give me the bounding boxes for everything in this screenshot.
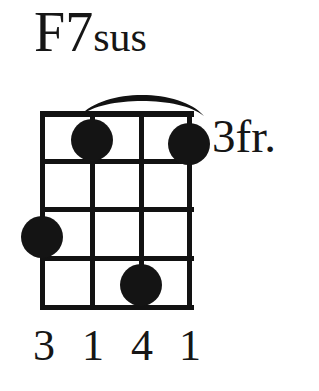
fret-line-3 xyxy=(42,256,194,261)
string-line-1 xyxy=(40,111,45,310)
finger-number-string-1: 3 xyxy=(24,322,64,370)
fret-position-label: 3fr. xyxy=(212,110,276,162)
finger-number-string-4: 1 xyxy=(170,322,210,370)
finger-number-row: 3 1 4 1 xyxy=(0,322,319,374)
dot-string1-fret3 xyxy=(21,216,63,258)
fret-line-2 xyxy=(42,207,194,212)
finger-number-string-2: 1 xyxy=(73,322,113,370)
nut-line xyxy=(42,111,194,117)
dot-string2-fret1 xyxy=(71,119,113,161)
finger-number-string-3: 4 xyxy=(122,322,162,370)
fret-line-1 xyxy=(42,159,194,164)
chord-diagram: 3fr. 3 1 4 1 xyxy=(0,0,319,391)
fret-line-4 xyxy=(42,305,194,310)
dot-string4-fret1 xyxy=(168,123,210,165)
chord-chart-page: F7sus 3fr. 3 1 4 1 xyxy=(0,0,319,391)
dot-string3-fret4 xyxy=(120,264,162,306)
